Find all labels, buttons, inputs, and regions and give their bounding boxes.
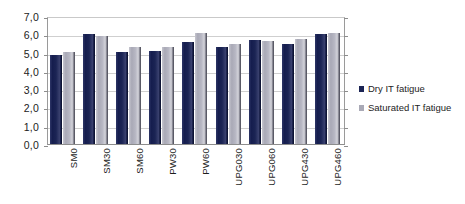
legend-label: Dry IT fatigue xyxy=(368,83,425,94)
bar xyxy=(63,52,75,144)
legend-swatch-icon xyxy=(359,105,364,111)
y-axis-tick-label: 1,0 xyxy=(24,122,39,132)
y-axis-tick-label: 2,0 xyxy=(24,103,39,113)
bar xyxy=(282,44,294,144)
x-axis-tick-label: UPG030 xyxy=(233,148,244,186)
y-axis-tick xyxy=(344,146,348,147)
legend-swatch-icon xyxy=(359,86,364,92)
legend-item: Dry IT fatigue xyxy=(359,83,465,94)
bar xyxy=(328,33,340,144)
bar xyxy=(116,52,128,144)
y-axis-tick-label: 6,0 xyxy=(24,30,39,40)
x-axis-tick-label: PW60 xyxy=(200,148,211,175)
y-axis-tick-label: 0,0 xyxy=(24,140,39,150)
bar-group xyxy=(180,18,213,144)
bar-group xyxy=(280,18,313,144)
bar xyxy=(50,55,62,144)
bar xyxy=(182,42,194,144)
bar xyxy=(315,34,327,144)
bar-group xyxy=(247,18,280,144)
bar-group xyxy=(313,18,346,144)
bar xyxy=(83,34,95,144)
y-axis-tick-label: 3,0 xyxy=(24,85,39,95)
bar-group xyxy=(81,18,114,144)
x-axis-tick-label: SM60 xyxy=(134,148,145,174)
chart-legend: Dry IT fatigueSaturated IT fatigue xyxy=(359,83,465,121)
bar xyxy=(129,47,141,144)
bar xyxy=(149,51,161,144)
x-axis-tick-label: PW30 xyxy=(167,148,178,175)
bar-group xyxy=(147,18,180,144)
bar xyxy=(216,47,228,144)
x-axis-tick-label: SM0 xyxy=(68,148,79,168)
bar xyxy=(249,40,261,144)
legend-label: Saturated IT fatigue xyxy=(368,102,451,113)
x-axis-tick-label: SM30 xyxy=(101,148,112,174)
x-axis-tick-label: UPG060 xyxy=(266,148,277,186)
bars-layer xyxy=(48,18,344,144)
x-axis: SM0SM30SM60PW30PW60UPG030UPG060UPG430UPG… xyxy=(47,148,345,204)
bar xyxy=(195,33,207,144)
y-axis: 7,06,05,04,03,02,01,00,0 xyxy=(0,0,44,204)
bar-group xyxy=(214,18,247,144)
bar xyxy=(162,47,174,144)
bar xyxy=(229,44,241,144)
legend-item: Saturated IT fatigue xyxy=(359,102,465,113)
bar-group xyxy=(114,18,147,144)
bar xyxy=(295,39,307,144)
y-axis-tick-label: 5,0 xyxy=(24,49,39,59)
bar xyxy=(262,41,274,144)
plot-area xyxy=(47,17,345,145)
x-axis-tick-label: UPG460 xyxy=(332,148,343,186)
y-axis-tick-label: 7,0 xyxy=(24,12,39,22)
bar xyxy=(96,36,108,144)
bar-chart: 7,06,05,04,03,02,01,00,0 SM0SM30SM60PW30… xyxy=(0,0,465,204)
y-axis-tick-label: 4,0 xyxy=(24,67,39,77)
x-axis-tick-label: UPG430 xyxy=(299,148,310,186)
bar-group xyxy=(48,18,81,144)
y-axis-tick xyxy=(44,146,48,147)
